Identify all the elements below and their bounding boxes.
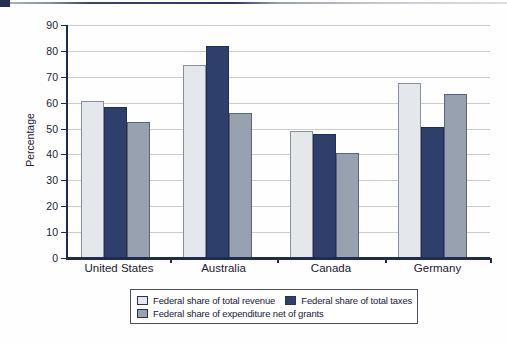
x-axis-tick xyxy=(490,258,492,263)
category-label: United States xyxy=(68,262,170,274)
x-axis-tick xyxy=(170,258,172,263)
legend-label: Federal share of total revenue xyxy=(153,295,275,306)
category-label: Australia xyxy=(170,262,277,274)
bar-germany-series-0 xyxy=(398,83,421,258)
y-axis-title: Percentage xyxy=(24,24,36,257)
legend-label: Federal share of total taxes xyxy=(301,295,412,306)
bar-united-states-series-0 xyxy=(81,101,104,258)
bar-australia-series-2 xyxy=(229,113,252,258)
legend-entry: Federal share of total taxes xyxy=(285,295,412,306)
bar-united-states-series-1 xyxy=(104,107,127,258)
legend-swatch-icon xyxy=(137,296,148,305)
x-axis-tick xyxy=(385,258,387,263)
bar-australia-series-0 xyxy=(183,65,206,258)
y-axis-tick-label: 60 xyxy=(24,97,58,109)
legend-entry: Federal share of total revenue xyxy=(137,295,275,306)
category-label: Germany xyxy=(385,262,490,274)
legend-row: Federal share of expenditure net of gran… xyxy=(137,307,411,320)
gridline xyxy=(68,25,490,26)
legend-entry: Federal share of expenditure net of gran… xyxy=(137,308,324,319)
bar-canada-series-0 xyxy=(290,131,313,258)
y-axis-tick-label: 20 xyxy=(24,200,58,212)
y-axis-tick-label: 40 xyxy=(24,148,58,160)
chart-legend: Federal share of total revenueFederal sh… xyxy=(130,289,418,324)
legend-label: Federal share of expenditure net of gran… xyxy=(153,308,324,319)
y-axis-line xyxy=(66,25,68,259)
gridline xyxy=(68,77,490,78)
bar-australia-series-1 xyxy=(206,46,229,258)
y-axis-tick-label: 90 xyxy=(24,19,58,31)
category-label: Canada xyxy=(277,262,385,274)
legend-rows: Federal share of total revenueFederal sh… xyxy=(137,294,411,320)
scanned-page: { "decor": { "corner_accent_color": "#23… xyxy=(0,0,507,343)
y-axis-tick-label: 30 xyxy=(24,174,58,186)
x-axis-tick xyxy=(277,258,279,263)
bar-united-states-series-2 xyxy=(127,122,150,258)
gridline xyxy=(68,103,490,104)
legend-swatch-icon xyxy=(285,296,296,305)
y-axis-tick-label: 70 xyxy=(24,71,58,83)
gridline xyxy=(68,51,490,52)
y-axis-tick-label: 50 xyxy=(24,123,58,135)
legend-swatch-icon xyxy=(137,309,148,318)
bar-canada-series-1 xyxy=(313,134,336,258)
legend-row: Federal share of total revenueFederal sh… xyxy=(137,294,411,307)
bar-canada-series-2 xyxy=(336,153,359,258)
bar-germany-series-2 xyxy=(444,94,467,258)
y-axis-tick-label: 80 xyxy=(24,45,58,57)
y-axis-tick-label: 0 xyxy=(24,252,58,264)
y-axis-tick-label: 10 xyxy=(24,226,58,238)
bar-germany-series-1 xyxy=(421,127,444,258)
